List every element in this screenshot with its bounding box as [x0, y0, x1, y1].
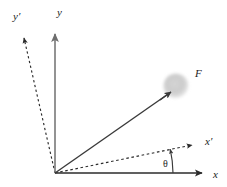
x-axis-label: x: [212, 168, 218, 180]
angle-label: θ: [163, 158, 168, 169]
y-prime-axis-label: y′: [12, 10, 21, 22]
y-axis-label: y: [56, 6, 62, 18]
force-vector-label: F: [194, 67, 202, 79]
vector-diagram-figure: y y′ x x′ F θ: [0, 0, 227, 187]
diagram-canvas: y y′ x x′ F θ: [0, 0, 227, 187]
y-prime-axis-line: [24, 38, 55, 173]
angle-arc: [170, 149, 173, 173]
x-prime-axis-label: x′: [204, 135, 213, 147]
